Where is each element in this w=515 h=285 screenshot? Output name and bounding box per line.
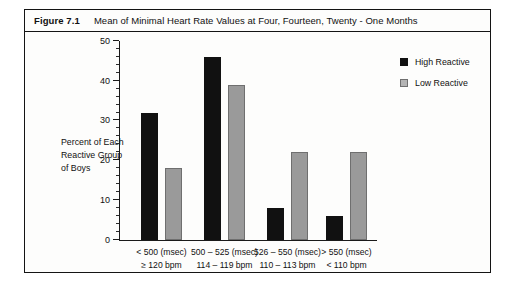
y-axis-tick-minor [116, 96, 120, 97]
y-axis-tick-label: 10 [100, 195, 110, 205]
y-axis-line [119, 41, 120, 241]
y-axis-tick-label: 40 [100, 76, 110, 86]
y-axis-tick-minor [116, 48, 120, 49]
legend-item: Low Reactive [400, 78, 470, 88]
y-axis-tick-minor [116, 215, 120, 216]
figure-frame: Figure 7.1 Mean of Minimal Heart Rate Va… [24, 9, 491, 273]
bar-high-reactive [326, 216, 343, 240]
y-axis-tick-minor [116, 175, 120, 176]
chart-legend: High ReactiveLow Reactive [400, 57, 470, 99]
bar-low-reactive [291, 152, 308, 239]
y-axis-tick-minor [116, 135, 120, 136]
legend-item: High Reactive [400, 57, 470, 67]
y-axis-tick-major [113, 199, 119, 200]
x-axis-label-range: > 550 (msec) [321, 247, 371, 257]
y-axis-tick-major [113, 119, 119, 120]
y-axis-tick-major [113, 159, 119, 160]
y-axis-tick-minor [116, 64, 120, 65]
bar-low-reactive [165, 168, 182, 240]
y-axis-tick-minor [116, 88, 120, 89]
x-axis-label-bpm: < 110 bpm [304, 259, 389, 272]
y-axis-tick-minor [116, 207, 120, 208]
legend-swatch-icon [400, 79, 408, 87]
y-axis-tick-minor [116, 56, 120, 57]
figure-number: Figure 7.1 [34, 15, 80, 26]
x-axis-group-label: > 550 (msec)< 110 bpm [304, 246, 389, 271]
figure-title: Mean of Minimal Heart Rate Values at Fou… [94, 15, 418, 26]
legend-swatch-icon [400, 58, 408, 66]
y-axis-tick-label: 0 [105, 235, 110, 245]
x-axis-line [119, 240, 377, 241]
y-axis-tick-label: 20 [100, 155, 110, 165]
y-axis-tick-minor [116, 72, 120, 73]
y-axis-tick-minor [116, 151, 120, 152]
y-axis-tick-minor [116, 167, 120, 168]
y-axis-tick-major [113, 239, 119, 240]
y-axis-tick-minor [116, 104, 120, 105]
y-axis-tick-minor [116, 223, 120, 224]
y-axis-tick-minor [116, 143, 120, 144]
y-axis-tick-label: 50 [100, 36, 110, 46]
y-axis-tick-minor [116, 112, 120, 113]
y-axis-tick-minor [116, 127, 120, 128]
bar-high-reactive [141, 113, 158, 240]
y-axis-tick-major [113, 80, 119, 81]
y-axis-tick-minor [116, 231, 120, 232]
y-axis-tick-label: 30 [100, 115, 110, 125]
bar-low-reactive [228, 85, 245, 240]
plot-area: 01020304050 < 500 (msec)≥ 120 bpm500 – 5… [119, 41, 377, 241]
bar-low-reactive [350, 152, 367, 239]
bar-high-reactive [267, 208, 284, 240]
legend-label: Low Reactive [415, 78, 468, 88]
x-axis-label-range: < 500 (msec) [136, 247, 186, 257]
figure-header: Figure 7.1 Mean of Minimal Heart Rate Va… [25, 10, 490, 32]
y-axis-tick-minor [116, 191, 120, 192]
y-axis-tick-minor [116, 183, 120, 184]
legend-label: High Reactive [415, 57, 470, 67]
y-axis-tick-major [113, 40, 119, 41]
bar-high-reactive [204, 57, 221, 240]
